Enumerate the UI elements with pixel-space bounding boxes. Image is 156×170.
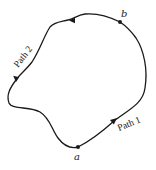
point-b [118, 20, 122, 24]
label-b: b [121, 8, 127, 19]
path-1-curve [78, 22, 146, 147]
label-a: a [74, 151, 80, 162]
path-2-curve [8, 14, 120, 148]
point-a [76, 145, 80, 149]
line-integral-diagram: b a Path 2 Path 1 [0, 0, 156, 170]
label-path-2: Path 2 [12, 44, 35, 69]
